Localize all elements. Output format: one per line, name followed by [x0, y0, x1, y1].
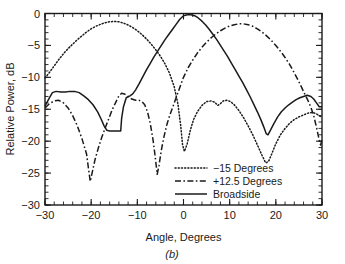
x-tick-label: −10: [128, 209, 147, 221]
y-tick-label: −30: [21, 199, 40, 211]
x-tick-label: 0: [180, 209, 186, 221]
legend-label-2: Broadside: [213, 188, 260, 200]
x-axis-tick-labels: −30−20−100102030: [36, 209, 328, 221]
y-axis-tick-labels: 0−5−10−15−20−25−30: [21, 8, 40, 212]
y-tick-label: −10: [21, 71, 40, 83]
x-axis-title: Angle, Degrees: [146, 231, 222, 243]
series-curve-1: [45, 24, 322, 182]
chart-legend: −15 Degrees+12.5 DegreesBroadside: [175, 162, 282, 200]
x-tick-label: 10: [224, 209, 236, 221]
y-tick-label: 0: [34, 8, 40, 20]
legend-label-1: +12.5 Degrees: [213, 175, 282, 187]
legend-label-0: −15 Degrees: [213, 162, 273, 174]
figure-panel-b: −30−20−100102030 0−5−10−15−20−25−30 Angl…: [0, 0, 345, 264]
data-series-layer: [45, 15, 322, 182]
y-axis-title: Relative Power, dB: [4, 63, 16, 156]
series-curve-0: [45, 21, 322, 162]
y-tick-label: −5: [27, 39, 40, 51]
x-tick-label: 30: [316, 209, 328, 221]
y-tick-label: −20: [21, 135, 40, 147]
x-tick-label: 20: [270, 209, 282, 221]
y-tick-label: −25: [21, 167, 40, 179]
relative-power-vs-angle-chart: −30−20−100102030 0−5−10−15−20−25−30 Angl…: [0, 0, 345, 264]
x-tick-label: −20: [82, 209, 101, 221]
figure-subcaption: (b): [165, 248, 179, 260]
y-tick-label: −15: [21, 103, 40, 115]
